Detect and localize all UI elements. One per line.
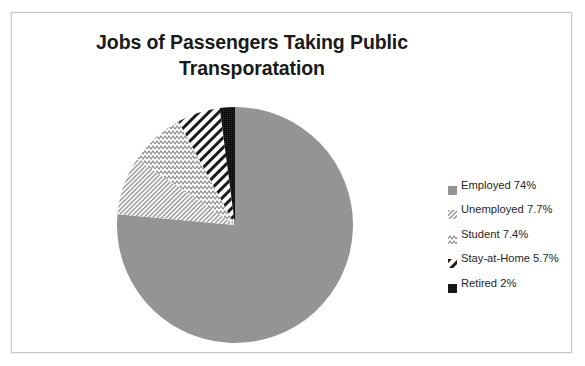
legend-label-employed: Employed 74% xyxy=(461,180,536,191)
pie-chart xyxy=(115,105,355,345)
legend-swatch-fine-diagonal-icon xyxy=(448,205,457,214)
chart-title-line-1: Jobs of Passengers Taking Public xyxy=(96,31,408,53)
chart-title-line-2: Transporatation xyxy=(179,57,325,79)
legend-swatch-dense-dark-icon xyxy=(448,279,457,288)
chart-frame: Jobs of Passengers Taking Public Transpo… xyxy=(11,12,572,353)
legend-label-unemployed: Unemployed 7.7% xyxy=(461,204,552,215)
chart-title: Jobs of Passengers Taking Public Transpo… xyxy=(52,30,452,81)
legend-label-stay-at-home: Stay-at-Home 5.7% xyxy=(461,253,559,264)
pie-slice-group xyxy=(117,107,353,343)
legend-swatch-solid-gray-icon xyxy=(448,181,457,190)
pie-chart-svg xyxy=(115,105,355,345)
chart-legend: Employed 74% Unemployed 7.7% Student 7.4… xyxy=(448,173,576,296)
legend-item-stay-at-home[interactable]: Stay-at-Home 5.7% xyxy=(448,247,576,272)
legend-swatch-diagonal-stripe-icon xyxy=(448,254,457,263)
legend-item-employed[interactable]: Employed 74% xyxy=(448,173,576,198)
legend-item-student[interactable]: Student 7.4% xyxy=(448,222,576,247)
legend-item-retired[interactable]: Retired 2% xyxy=(448,271,576,296)
legend-swatch-wavy-icon xyxy=(448,230,457,239)
legend-label-student: Student 7.4% xyxy=(461,229,528,240)
legend-item-unemployed[interactable]: Unemployed 7.7% xyxy=(448,198,576,223)
legend-label-retired: Retired 2% xyxy=(461,278,516,289)
